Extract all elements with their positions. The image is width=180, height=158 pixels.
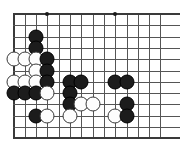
go-board	[0, 0, 180, 158]
white-stone	[40, 108, 55, 123]
white-stone	[63, 108, 78, 123]
black-stone	[119, 108, 134, 123]
white-stone	[85, 97, 100, 112]
black-stone	[119, 74, 134, 89]
white-stone	[40, 86, 55, 101]
stones-layer	[0, 0, 180, 158]
black-stone	[74, 74, 89, 89]
